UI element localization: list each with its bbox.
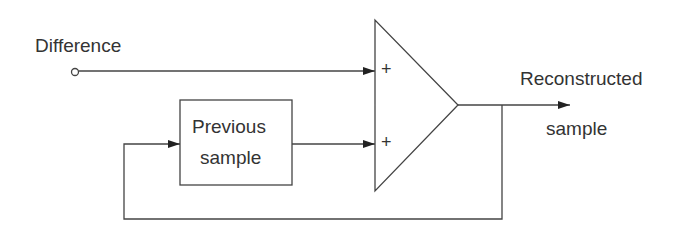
input-label: Difference [35, 35, 121, 57]
plus-sign-bottom: + [381, 132, 392, 153]
input-terminal-icon [72, 69, 79, 76]
previous-sample-block [180, 100, 292, 185]
adder-triangle [375, 20, 458, 191]
block-label-line2: sample [200, 147, 261, 169]
output-label-line2: sample [546, 118, 607, 140]
plus-sign-top: + [381, 59, 392, 80]
feedback-line [124, 105, 502, 219]
output-label-line1: Reconstructed [520, 68, 643, 90]
block-label-line1: Previous [192, 116, 266, 138]
